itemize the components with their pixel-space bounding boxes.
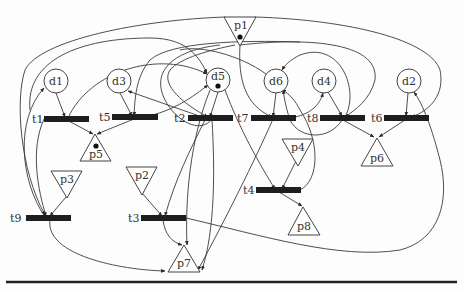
arc-t3-p7 [163,220,182,245]
transition-t3-label: t3 [128,212,139,225]
arc-d5-t2 [210,92,218,117]
arc-t9-d1 [24,88,45,217]
place-p4[interactable]: p4 [282,139,313,166]
place-d2[interactable]: d2 [397,69,421,93]
place-p1-label: p1 [234,19,248,32]
arc-t9-p7 [50,220,165,271]
transition-t4[interactable]: t4 [243,184,301,197]
transition-t8-label: t8 [307,112,318,125]
transition-t5-label: t5 [99,111,110,124]
arc-d6-t7 [273,93,276,117]
transition-t6-label: t6 [371,112,382,125]
place-p6-label: p6 [370,152,384,165]
place-p7-label: p7 [177,257,191,270]
place-p8-label: p8 [297,220,311,233]
place-d4-label: d4 [317,75,331,88]
place-p5-label: p5 [89,148,103,161]
place-d2-label: d2 [402,75,416,88]
arc-t1-p5 [67,120,93,134]
arc-p2-t3 [142,193,162,216]
arc-p3-t9 [50,197,66,216]
transition-t1[interactable]: t1 [32,113,89,126]
arc-t1-t9 [36,119,46,216]
arc-t7-p7 [198,119,273,270]
transition-t2-bar [188,115,233,121]
arc-p1-t6 [255,17,441,117]
place-d5-label: d5 [211,70,225,83]
transition-t8-bar [320,115,365,121]
petri-net-svg: d1 d3 d5 d6 d4 d2 [0,0,463,291]
arc-d5-t4 [225,90,275,189]
arc-d1-t1 [56,93,65,117]
transition-t7-bar [251,115,296,121]
place-d6[interactable]: d6 [264,69,288,93]
place-d1[interactable]: d1 [44,69,68,93]
transition-t3-bar [141,215,186,221]
transition-t9[interactable]: t9 [10,212,71,225]
place-d3[interactable]: d3 [107,69,131,93]
transition-t7-label: t7 [237,112,248,125]
transition-t4-label: t4 [243,184,254,197]
transition-t4-bar [256,187,301,193]
place-p3-label: p3 [60,173,74,186]
arc-t4-p8 [279,192,302,206]
transition-t6-bar [384,115,429,121]
transition-t1-bar [44,116,89,122]
arc-t5-d5 [135,85,208,118]
token-p5 [93,143,98,148]
transition-t9-bar [26,215,71,221]
place-p2[interactable]: p2 [126,167,157,195]
place-d1-label: d1 [49,75,63,88]
petri-net-diagram: d1 d3 d5 d6 d4 d2 [0,0,463,291]
place-p5[interactable]: p5 [80,134,111,161]
transition-t9-label: t9 [10,212,21,225]
transition-t2-label: t2 [174,112,185,125]
place-p3[interactable]: p3 [51,171,82,198]
place-p7[interactable]: p7 [168,245,200,272]
arc-d3-t5 [120,93,132,116]
transition-t5-bar [112,114,158,120]
token-d5 [215,83,220,88]
place-d3-label: d3 [112,75,126,88]
place-p2-label: p2 [135,169,149,182]
transition-t5[interactable]: t5 [99,111,158,124]
place-d5[interactable]: d5 [206,68,230,92]
arc-t2-p7r [202,120,214,270]
transitions: t1 t5 t2 t7 t8 t6 [10,111,429,225]
circle-places: d1 d3 d5 d6 d4 d2 [44,68,421,93]
arc-d4-t8 [328,92,342,116]
arc-t2-t3 [165,120,205,216]
arc-t1-d5 [68,64,207,118]
transition-t3[interactable]: t3 [128,212,186,225]
place-d6-label: d6 [269,75,283,88]
place-p4-label: p4 [291,141,305,154]
place-p8[interactable]: p8 [288,207,320,235]
transition-t1-label: t1 [32,113,43,126]
arc-d2-t6 [406,93,408,116]
place-d4[interactable]: d4 [312,69,336,93]
arc-t6-p6 [379,120,405,137]
transition-t8[interactable]: t8 [307,112,365,125]
token-p1 [237,34,242,39]
place-p6[interactable]: p6 [361,138,393,166]
arc-t2-d3 [128,91,205,118]
arc-t8-p6 [343,120,374,137]
